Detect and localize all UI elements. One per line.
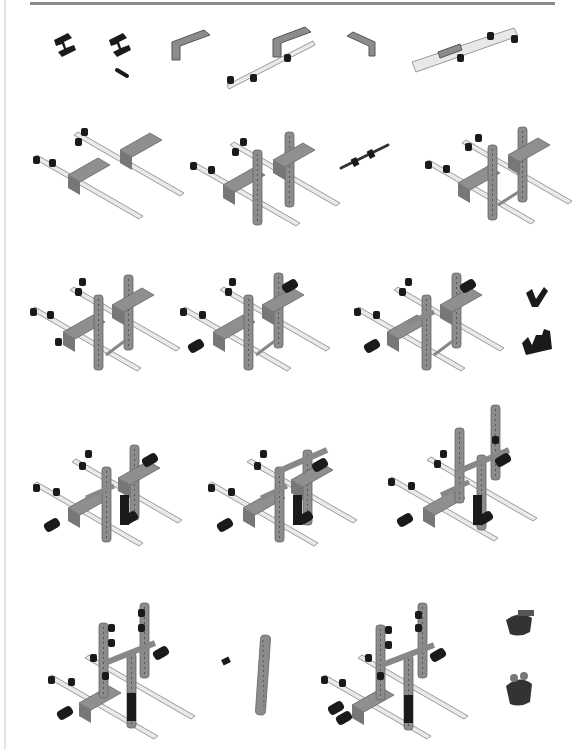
step-r1e: L-beam part xyxy=(345,30,385,60)
l-beam-icon xyxy=(170,28,215,63)
l-beam-icon xyxy=(345,30,385,60)
step-r5b: vertical beam and pin parts xyxy=(220,630,280,730)
step-r5d: gear hub parts xyxy=(500,608,540,718)
step-r1d: L-beam and long beam sub-assembly xyxy=(225,25,320,95)
gear-hub-icon xyxy=(500,608,540,718)
frame-step-icon xyxy=(420,125,545,215)
step-r3c: frame with cross axle xyxy=(352,268,482,365)
step-r2c: axle with bushings xyxy=(338,140,393,175)
frame-step-icon xyxy=(352,268,482,365)
step-r1f: long beam sub-assembly xyxy=(410,22,520,82)
frame-step-icon xyxy=(185,130,310,215)
step-r4a: frame with black connectors xyxy=(30,440,165,540)
step-r1b: cross-block with axle part xyxy=(105,30,135,80)
angle-connector-icon xyxy=(518,285,558,360)
long-beam-assembly-icon xyxy=(410,22,520,82)
step-r3a: frame step xyxy=(28,270,148,365)
frame-step-icon xyxy=(178,268,303,365)
frame-step-icon xyxy=(318,600,453,735)
frame-step-icon xyxy=(45,598,175,733)
cross-block-axle-icon xyxy=(105,30,135,80)
step-r1a: cross-block part xyxy=(50,30,80,60)
page-top-rule xyxy=(30,2,555,5)
page-left-border xyxy=(4,0,6,749)
cross-block-icon xyxy=(50,30,80,60)
frame-step-icon xyxy=(385,400,525,540)
frame-step-icon xyxy=(30,440,165,540)
step-r2b: frame with two vertical beams xyxy=(185,130,310,215)
step-r1c: L-beam part xyxy=(170,28,215,63)
step-r4c: frame with tall vertical beam xyxy=(385,400,525,540)
step-r4b: frame with upper axle xyxy=(205,440,340,540)
step-r5c: completed frame assembly xyxy=(318,600,453,735)
vertical-beam-pin-icon xyxy=(220,630,280,730)
step-r3d: angle connector parts xyxy=(518,285,558,360)
step-r2a: two long beams with L-beams xyxy=(30,130,150,210)
axle-icon xyxy=(338,140,393,175)
frame-step-icon xyxy=(28,270,148,365)
frame-step-icon xyxy=(30,130,150,210)
frame-step-icon xyxy=(205,440,340,540)
l-beam-longbeam-icon xyxy=(225,25,320,95)
step-r5a: frame with pins on vertical beams xyxy=(45,598,175,733)
step-r2d: frame with connecting axle xyxy=(420,125,545,215)
step-r3b: frame with pins added xyxy=(178,268,303,365)
